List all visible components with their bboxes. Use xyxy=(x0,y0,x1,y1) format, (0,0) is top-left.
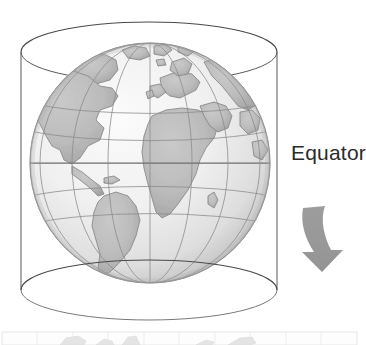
earth-globe xyxy=(26,43,270,283)
projection-arrow xyxy=(302,206,343,272)
flat-map-strip xyxy=(2,332,357,345)
equator-label: Equator xyxy=(291,140,366,166)
